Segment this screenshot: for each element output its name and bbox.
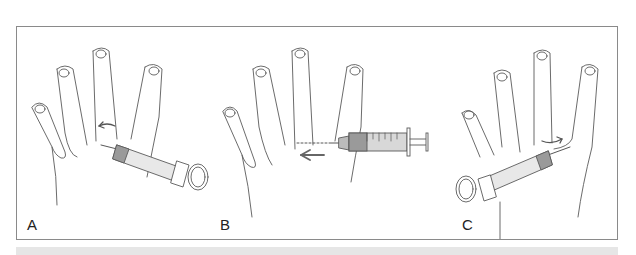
hand-illustration-a [17,27,217,239]
caption-strip [16,247,618,255]
panel-label-c: C [462,217,473,232]
hand-illustration-b [217,27,422,239]
figure-frame: A [16,26,618,240]
panel-label-b: B [220,217,230,232]
panel-a: A [17,27,217,239]
panel-label-a: A [27,217,37,232]
panel-b: B [217,27,422,239]
syringe-b [329,128,422,156]
hand-illustration-c [422,27,619,239]
syringe-a [101,145,208,190]
syringe-c [456,147,570,239]
panel-c: C [422,27,619,239]
